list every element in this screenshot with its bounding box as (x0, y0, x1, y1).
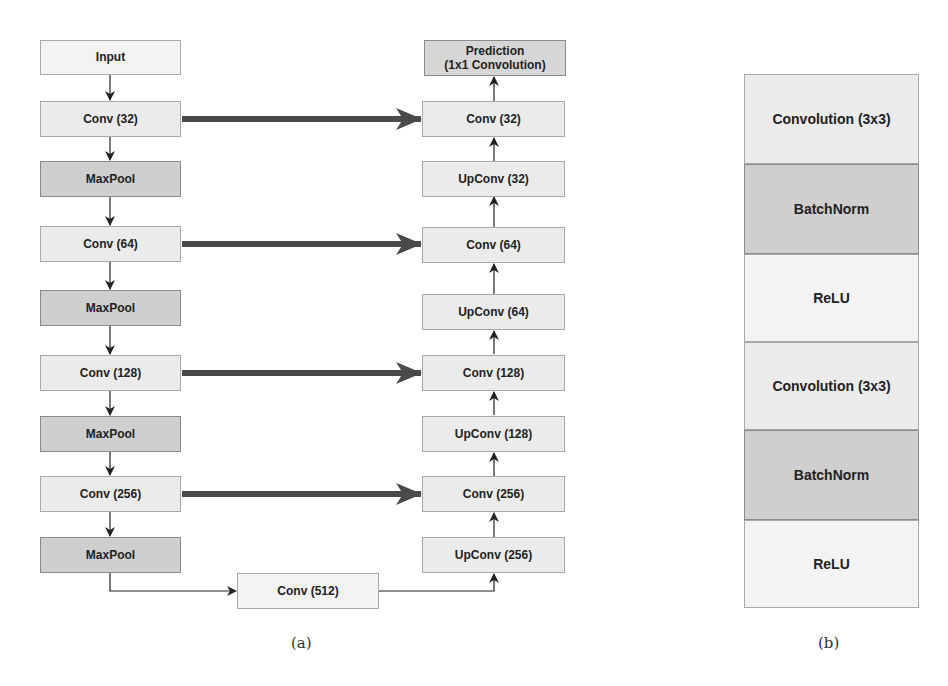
layer-convolution-3x3: Convolution (3x3) (744, 74, 919, 164)
block-label: Conv (32) (83, 112, 138, 126)
block-label: Conv (128) (80, 366, 141, 380)
block-label: MaxPool (86, 172, 135, 186)
maxpool-4: MaxPool (40, 537, 181, 573)
layer-label: Convolution (3x3) (772, 111, 890, 128)
encoder-conv-256: Conv (256) (40, 476, 181, 512)
decoder-arrows (379, 77, 494, 591)
block-label: Prediction (1x1 Convolution) (444, 44, 545, 73)
encoder-conv-32: Conv (32) (40, 101, 181, 137)
block-label: UpConv (64) (458, 305, 529, 319)
block-label: Conv (256) (80, 487, 141, 501)
block-label: Conv (512) (277, 584, 338, 598)
layer-batchnorm: BatchNorm (744, 164, 919, 254)
maxpool-3: MaxPool (40, 416, 181, 452)
block-label: UpConv (128) (455, 427, 532, 441)
block-label: MaxPool (86, 301, 135, 315)
prediction-block: Prediction (1x1 Convolution) (424, 40, 566, 76)
caption-b: (b) (818, 634, 839, 652)
layer-label: ReLU (813, 556, 850, 573)
decoder-conv-128: Conv (128) (422, 355, 565, 391)
block-label: UpConv (32) (458, 172, 529, 186)
maxpool-1: MaxPool (40, 161, 181, 197)
block-label: MaxPool (86, 427, 135, 441)
layer-label: Convolution (3x3) (772, 378, 890, 395)
upconv-32: UpConv (32) (422, 161, 565, 197)
conv-block-detail: Convolution (3x3) BatchNorm ReLU Convolu… (744, 74, 919, 608)
block-label: Input (96, 50, 125, 64)
skip-connection-arrows (182, 119, 421, 494)
caption-a: (a) (291, 634, 312, 652)
prediction-subtitle: (1x1 Convolution) (444, 58, 545, 72)
upconv-128: UpConv (128) (422, 416, 565, 452)
maxpool-2: MaxPool (40, 290, 181, 326)
layer-relu: ReLU (744, 520, 919, 608)
bottleneck-conv-512: Conv (512) (237, 573, 379, 609)
block-label: UpConv (256) (455, 548, 532, 562)
input-block: Input (40, 40, 181, 75)
layer-label: BatchNorm (794, 201, 869, 218)
layer-relu: ReLU (744, 254, 919, 342)
encoder-arrows (110, 75, 236, 591)
prediction-title: Prediction (444, 44, 545, 58)
block-label: Conv (128) (463, 366, 524, 380)
layer-batchnorm: BatchNorm (744, 430, 919, 520)
block-label: MaxPool (86, 548, 135, 562)
decoder-conv-32: Conv (32) (422, 101, 565, 137)
block-label: Conv (32) (466, 112, 521, 126)
encoder-conv-64: Conv (64) (40, 226, 181, 262)
block-label: Conv (256) (463, 487, 524, 501)
decoder-conv-64: Conv (64) (422, 227, 565, 263)
layer-label: BatchNorm (794, 467, 869, 484)
encoder-conv-128: Conv (128) (40, 355, 181, 391)
block-label: Conv (64) (466, 238, 521, 252)
decoder-conv-256: Conv (256) (422, 476, 565, 512)
upconv-64: UpConv (64) (422, 294, 565, 330)
block-label: Conv (64) (83, 237, 138, 251)
layer-convolution-3x3: Convolution (3x3) (744, 342, 919, 430)
layer-label: ReLU (813, 290, 850, 307)
upconv-256: UpConv (256) (422, 537, 565, 573)
